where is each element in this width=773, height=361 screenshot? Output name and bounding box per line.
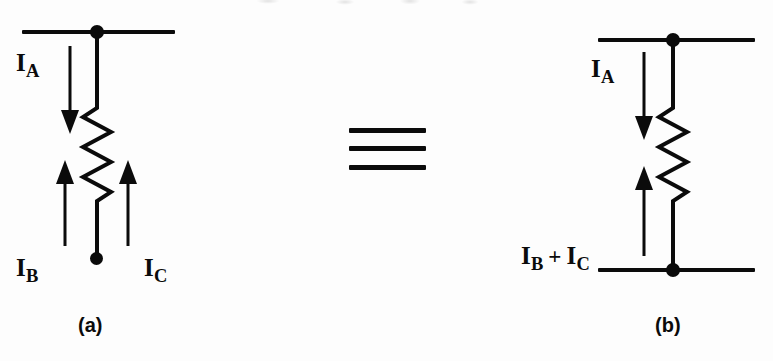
scan-artifact-band [0, 0, 773, 9]
panel-b-lower-wire [671, 206, 675, 270]
panel-a-upper-wire [95, 32, 99, 104]
panel-b-current-a-symbol: I [591, 55, 601, 82]
panel-b-current-a-label: IA [591, 56, 614, 86]
panel-a-current-a-subscript: A [26, 61, 39, 81]
panel-b-current-sum-arrow [634, 166, 654, 256]
panel-a-current-c-label: IC [144, 255, 167, 285]
panel-a-caption: (a) [78, 315, 102, 335]
panel-a-current-c-symbol: I [144, 254, 154, 281]
panel-b-current-sum-label: IB+IC [521, 243, 590, 273]
panel-b-current-a-subscript: A [601, 67, 614, 87]
panel-b-current-a-arrow [634, 52, 654, 140]
panel-b-current-sum-left-subscript: B [531, 254, 543, 274]
figure-canvas: IA IB IC (a) [0, 0, 773, 361]
panel-a-bottom-terminal-dot [90, 252, 103, 265]
panel-b-current-sum-operator: + [543, 244, 566, 269]
panel-b-resistor [655, 102, 691, 208]
panel-a-current-b-symbol: I [16, 254, 26, 281]
identity-bar-middle [349, 146, 426, 151]
panel-a-current-b-arrow [55, 160, 75, 246]
panel-a-current-a-symbol: I [16, 49, 26, 76]
identity-equivalence-symbol [349, 128, 426, 170]
panel-b-current-sum-right-symbol: I [567, 242, 577, 269]
panel-a-lower-wire [95, 206, 99, 258]
panel-a-current-b-subscript: B [26, 266, 38, 286]
panel-b-upper-wire [671, 40, 675, 104]
panel-a-current-a-arrow [60, 46, 80, 134]
identity-bar-top [349, 128, 426, 133]
identity-bar-bottom [349, 165, 426, 170]
panel-a-resistor [79, 102, 115, 208]
panel-b-current-sum-left-symbol: I [521, 242, 531, 269]
panel-b-caption: (b) [655, 315, 681, 335]
panel-b-bottom-node-dot [666, 263, 680, 277]
panel-a-current-b-label: IB [16, 255, 38, 285]
panel-a-current-a-label: IA [16, 50, 39, 80]
panel-b-current-sum-right-subscript: C [577, 254, 590, 274]
panel-a-current-c-arrow [118, 160, 138, 246]
panel-a-current-c-subscript: C [154, 266, 167, 286]
